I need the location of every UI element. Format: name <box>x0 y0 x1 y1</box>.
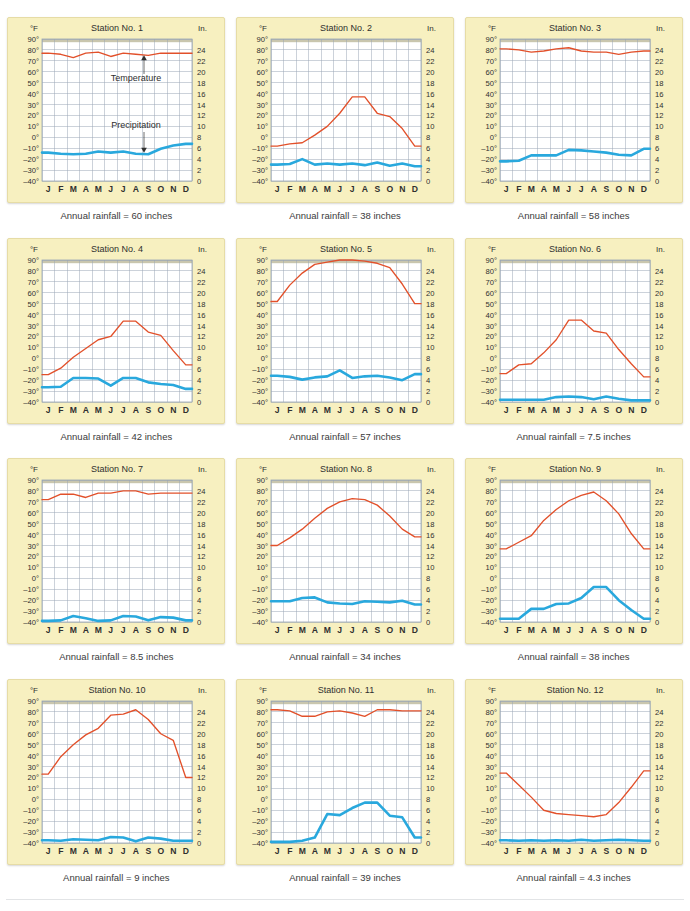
precip-tick-label: 20 <box>197 729 205 738</box>
climograph-panel-5[interactable]: Station No. 5°FIn.90°80°70°60°50°40°30°2… <box>236 238 454 424</box>
temp-tick-label: –40° <box>481 177 497 186</box>
climograph-panel-9[interactable]: Station No. 9°FIn.90°80°70°60°50°40°30°2… <box>465 458 683 644</box>
month-label: M <box>299 405 306 415</box>
temp-tick-label: –20° <box>24 376 40 385</box>
month-label: O <box>615 625 622 635</box>
temp-tick-label: 0° <box>261 795 268 804</box>
month-label: J <box>504 846 509 856</box>
climograph-panel-1[interactable]: Station No. 1°FIn.90°80°70°60°50°40°30°2… <box>7 17 225 203</box>
climograph-panel-11[interactable]: Station No. 11°FIn.90°80°70°60°50°40°30°… <box>236 679 454 865</box>
climograph-panel-2[interactable]: Station No. 2°FIn.90°80°70°60°50°40°30°2… <box>236 17 454 203</box>
temp-tick-label: 10° <box>257 563 268 572</box>
month-label: F <box>58 184 63 194</box>
precip-tick-label: 0 <box>197 618 201 627</box>
month-label: A <box>133 625 139 635</box>
left-axis-unit-label: °F <box>30 24 38 33</box>
precip-tick-label: 12 <box>426 773 434 782</box>
temp-tick-label: –40° <box>252 177 268 186</box>
temp-tick-label: –20° <box>24 155 40 164</box>
temp-tick-label: 50° <box>485 740 496 749</box>
precip-tick-label: 12 <box>197 773 205 782</box>
precip-tick-label: 2 <box>197 607 201 616</box>
month-label: F <box>516 846 521 856</box>
climograph-panel-6[interactable]: Station No. 6°FIn.90°80°70°60°50°40°30°2… <box>465 238 683 424</box>
precip-tick-label: 6 <box>426 585 430 594</box>
month-label: F <box>516 405 521 415</box>
month-label: A <box>83 625 89 635</box>
climograph-panel-3[interactable]: Station No. 3°FIn.90°80°70°60°50°40°30°2… <box>465 17 683 203</box>
climograph-panel-8[interactable]: Station No. 8°FIn.90°80°70°60°50°40°30°2… <box>236 458 454 644</box>
annual-rainfall-label: Annual rainfall = 39 inches <box>289 872 401 883</box>
temp-tick-label: 40° <box>257 751 268 760</box>
precip-tick-label: 22 <box>426 277 434 286</box>
right-axis-unit-label: In. <box>427 24 436 33</box>
precipitation-annotation-label: Precipitation <box>112 120 162 130</box>
precip-tick-label: 8 <box>197 354 201 363</box>
temp-tick-label: 40° <box>485 751 496 760</box>
temp-tick-label: 20° <box>28 773 39 782</box>
temp-tick-label: 20° <box>28 332 39 341</box>
precip-tick-label: 14 <box>197 101 205 110</box>
temp-tick-label: –10° <box>481 806 497 815</box>
temp-tick-label: 50° <box>28 740 39 749</box>
annual-rainfall-label: Annual rainfall = 58 inches <box>518 210 630 221</box>
left-axis-unit-label: °F <box>259 686 267 695</box>
climograph-cell: Station No. 5°FIn.90°80°70°60°50°40°30°2… <box>233 238 458 457</box>
temp-tick-label: 10° <box>257 784 268 793</box>
month-label: J <box>337 405 342 415</box>
month-label: F <box>58 846 63 856</box>
temp-tick-label: –10° <box>24 585 40 594</box>
month-label: M <box>324 405 331 415</box>
temp-tick-label: –40° <box>481 839 497 848</box>
month-label: D <box>640 184 646 194</box>
month-label: O <box>158 846 165 856</box>
precip-tick-label: 24 <box>426 266 434 275</box>
month-label: J <box>350 405 355 415</box>
month-label: N <box>399 405 405 415</box>
temp-tick-label: 70° <box>485 277 496 286</box>
temp-tick-label: 70° <box>28 277 39 286</box>
month-label: A <box>540 184 546 194</box>
precipitation-line <box>500 839 650 840</box>
month-label: J <box>121 405 126 415</box>
temp-tick-label: 60° <box>28 68 39 77</box>
precip-tick-label: 12 <box>426 332 434 341</box>
month-label: M <box>70 846 77 856</box>
temp-tick-label: –30° <box>481 387 497 396</box>
climograph-panel-12[interactable]: Station No. 12°FIn.90°80°70°60°50°40°30°… <box>465 679 683 865</box>
precip-tick-label: 10 <box>197 784 205 793</box>
climograph-panel-10[interactable]: Station No. 10°FIn.90°80°70°60°50°40°30°… <box>7 679 225 865</box>
right-axis-unit-label: In. <box>198 686 207 695</box>
right-axis-unit-label: In. <box>656 465 665 474</box>
month-label: S <box>603 184 609 194</box>
month-label: M <box>70 625 77 635</box>
right-axis-unit-label: In. <box>198 245 207 254</box>
month-label: M <box>299 625 306 635</box>
temp-tick-label: 60° <box>485 509 496 518</box>
precip-tick-label: 10 <box>655 343 663 352</box>
month-label: J <box>275 846 280 856</box>
month-label: A <box>540 625 546 635</box>
left-axis-unit-label: °F <box>488 686 496 695</box>
right-axis-unit-label: In. <box>198 465 207 474</box>
temp-tick-label: –40° <box>252 398 268 407</box>
temp-tick-label: –20° <box>24 596 40 605</box>
annual-rainfall-label: Annual rainfall = 34 inches <box>289 651 401 662</box>
month-label: A <box>312 625 318 635</box>
temp-tick-label: 60° <box>257 68 268 77</box>
precip-tick-label: 12 <box>655 552 663 561</box>
month-label: A <box>362 184 368 194</box>
month-label: M <box>324 846 331 856</box>
climograph-panel-4[interactable]: Station No. 4°FIn.90°80°70°60°50°40°30°2… <box>7 238 225 424</box>
temp-tick-label: –20° <box>252 596 268 605</box>
precip-tick-label: 0 <box>426 398 430 407</box>
precip-tick-label: 14 <box>426 101 434 110</box>
climograph-panel-7[interactable]: Station No. 7°FIn.90°80°70°60°50°40°30°2… <box>7 458 225 644</box>
month-label: J <box>504 625 509 635</box>
month-label: D <box>640 625 646 635</box>
precip-tick-label: 6 <box>197 585 201 594</box>
month-label: D <box>640 846 646 856</box>
month-label: M <box>70 184 77 194</box>
month-label: A <box>540 405 546 415</box>
temp-tick-label: –30° <box>24 166 40 175</box>
